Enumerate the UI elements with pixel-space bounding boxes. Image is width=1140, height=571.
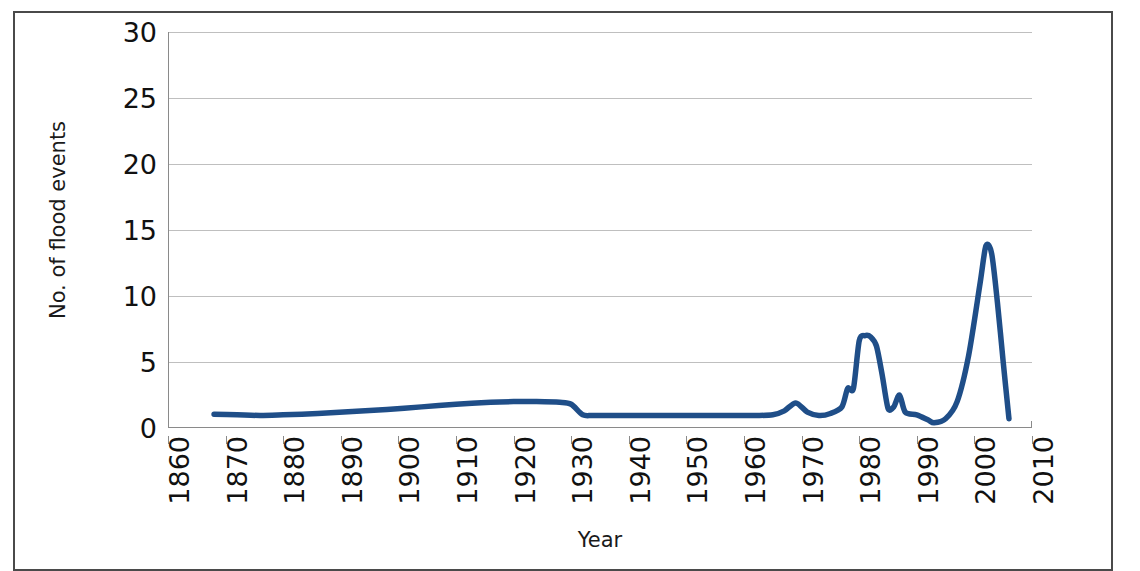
y-tick-label: 30 <box>123 19 157 46</box>
x-tick-label: 1890 <box>338 436 365 505</box>
y-tick-label: 0 <box>140 415 157 442</box>
x-tick-label: 1910 <box>454 436 481 505</box>
data-series-line <box>168 32 1032 428</box>
x-tick-label: 1950 <box>684 436 711 505</box>
x-tick-label: 1980 <box>857 436 884 505</box>
y-tick-label: 20 <box>123 151 157 178</box>
y-tick-label: 15 <box>123 217 157 244</box>
flood-events-line <box>214 244 1009 422</box>
x-tick-label: 1930 <box>569 436 596 505</box>
x-tick-label: 1990 <box>914 436 941 505</box>
y-tick-label: 5 <box>140 349 157 376</box>
x-tick-label: 1940 <box>626 436 653 505</box>
x-axis-title: Year <box>168 528 1032 552</box>
x-tick-label: 1960 <box>742 436 769 505</box>
y-axis-ticks: 051015202530 <box>0 32 157 428</box>
x-tick-label: 1870 <box>223 436 250 505</box>
x-axis-ticks: 1860187018801890190019101920193019401950… <box>168 436 1032 536</box>
x-tick-label: 1900 <box>396 436 423 505</box>
x-tick-label: 2010 <box>1030 436 1057 505</box>
x-tick-label: 1920 <box>511 436 538 505</box>
plot-area <box>168 32 1032 428</box>
y-tick-label: 10 <box>123 283 157 310</box>
x-tick-label: 1860 <box>166 436 193 505</box>
x-tick-label: 1880 <box>281 436 308 505</box>
y-tick-label: 25 <box>123 85 157 112</box>
x-tick-label: 2000 <box>972 436 999 505</box>
x-tick-label: 1970 <box>799 436 826 505</box>
